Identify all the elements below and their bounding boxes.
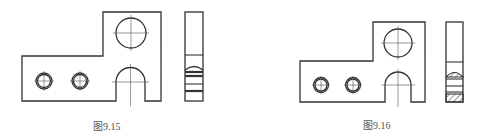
figure-caption-9-15: 图9.15 [93,118,121,133]
figure-caption-9-16: 图9.16 [363,117,391,132]
figure-9-15 [22,12,203,106]
front-view [22,12,161,106]
hatched-section-top [446,73,463,78]
hatched-section-bottom [446,94,463,102]
slot-arc [185,67,203,71]
drawing-canvas [0,0,482,140]
front-view [300,22,425,107]
figure-9-16 [300,22,463,107]
side-outline [185,12,203,101]
side-view [185,12,203,101]
side-view [446,22,463,102]
